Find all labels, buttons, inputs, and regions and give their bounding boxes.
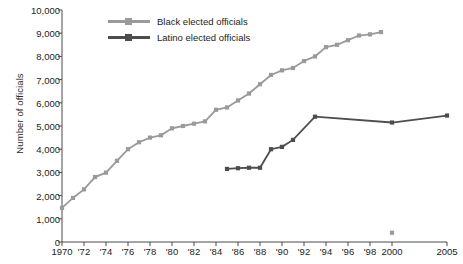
data-point-marker — [357, 33, 361, 37]
data-point-marker — [82, 187, 86, 191]
data-point-marker — [192, 122, 196, 126]
data-point-marker — [247, 166, 251, 170]
data-point-marker — [379, 30, 383, 34]
data-point-marker — [258, 166, 262, 170]
data-point-marker — [390, 231, 394, 235]
legend-item-latino[interactable]: Latino elected officials — [108, 32, 250, 43]
data-point-marker — [390, 120, 394, 124]
data-point-marker — [214, 108, 218, 112]
data-point-marker — [280, 68, 284, 72]
data-point-marker — [60, 206, 64, 210]
data-point-marker — [170, 126, 174, 130]
series-2 — [390, 231, 394, 235]
legend-label-black: Black elected officials — [157, 16, 248, 27]
data-point-marker — [269, 73, 273, 77]
data-point-marker — [324, 45, 328, 49]
data-point-marker — [137, 140, 141, 144]
series-line — [227, 116, 447, 169]
data-point-marker — [247, 91, 251, 95]
data-point-marker — [181, 124, 185, 128]
data-point-marker — [280, 145, 284, 149]
legend-label-latino: Latino elected officials — [157, 32, 250, 43]
series-line — [62, 32, 381, 208]
data-point-marker — [115, 159, 119, 163]
data-point-marker — [269, 147, 273, 151]
data-point-marker — [236, 98, 240, 102]
data-point-marker — [368, 32, 372, 36]
data-point-marker — [225, 105, 229, 109]
data-point-marker — [93, 175, 97, 179]
data-point-marker — [236, 166, 240, 170]
data-point-marker — [291, 66, 295, 70]
data-point-marker — [302, 59, 306, 63]
data-point-marker — [313, 115, 317, 119]
data-point-marker — [148, 136, 152, 140]
legend-swatch-latino — [108, 36, 150, 39]
data-point-marker — [291, 138, 295, 142]
series-1 — [225, 113, 449, 171]
data-point-marker — [346, 38, 350, 42]
data-point-marker — [159, 133, 163, 137]
series-0 — [60, 30, 383, 210]
legend-swatch-black — [108, 20, 150, 23]
data-point-marker — [71, 196, 75, 200]
data-point-marker — [258, 82, 262, 86]
data-point-marker — [225, 167, 229, 171]
data-point-marker — [126, 147, 130, 151]
data-point-marker — [104, 171, 108, 175]
data-point-marker — [203, 119, 207, 123]
legend-item-black[interactable]: Black elected officials — [108, 16, 248, 27]
data-point-marker — [335, 43, 339, 47]
data-point-marker — [445, 113, 449, 117]
data-point-marker — [313, 54, 317, 58]
chart-container: Number of officials 01,0002,0003,0004,00… — [0, 0, 463, 264]
